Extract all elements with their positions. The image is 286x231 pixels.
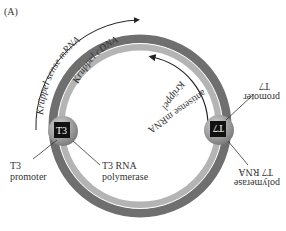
t3-promoter-box-label: T3 (56, 125, 67, 136)
t7-promoter-label-line1: T7 (259, 81, 270, 92)
t7-polymerase-label-line2: polymerase (233, 178, 280, 189)
t3-polymerase-label-line1: T3 RNA (102, 160, 138, 171)
panel-label: (A) (4, 6, 18, 18)
t7-polymerase-leader (228, 141, 248, 165)
t7-promoter-label-line2: promoter (243, 92, 280, 103)
t3-promoter-label-line1: T3 (10, 160, 21, 171)
t7-promoter-box-label: T7 (213, 123, 224, 134)
t3-polymerase-leader (73, 141, 100, 165)
t7-polymerase-label-line1: T7 RNA (238, 167, 274, 178)
t3-polymerase-label-line2: polymerase (102, 171, 149, 182)
t3-promoter-label-line2: promoter (10, 171, 47, 182)
diagram-canvas: (A) Krüppel cDNA Krüppel sense mRNA anti… (0, 0, 286, 231)
antisense-label-group: antisense mRNA Krüppel (145, 79, 208, 137)
